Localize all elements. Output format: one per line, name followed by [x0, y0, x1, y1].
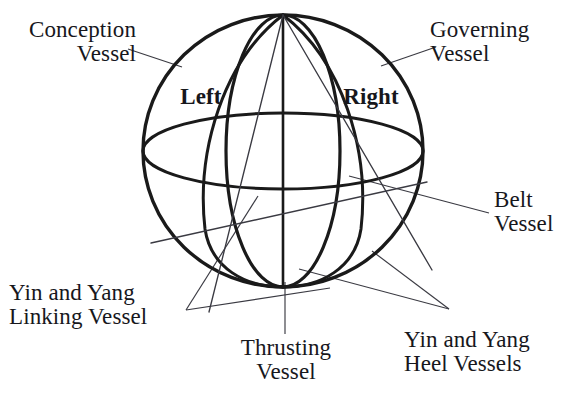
sphere-diagram: Conception Vessel Governing Vessel Belt … — [0, 0, 563, 401]
heel-vessel-chord-lower — [151, 182, 427, 243]
leader-linking-b — [186, 288, 330, 310]
label-linking-vessel: Yin and Yang Linking Vessel — [9, 281, 189, 330]
label-right: Right — [333, 85, 409, 109]
label-governing-vessel: Governing Vessel — [430, 18, 563, 67]
label-conception-vessel: Conception Vessel — [0, 18, 136, 67]
label-belt-vessel: Belt Vessel — [494, 188, 563, 237]
label-left: Left — [165, 85, 237, 109]
label-thrusting-vessel: Thrusting Vessel — [225, 336, 347, 385]
sphere-group — [143, 15, 432, 312]
yin-linking-vessel-chord — [209, 15, 283, 312]
label-heel-vessels: Yin and Yang Heel Vessels — [404, 328, 563, 377]
yang-linking-vessel-chord — [283, 15, 432, 270]
leader-heel-a — [372, 251, 449, 309]
leader-linking-a — [186, 196, 258, 310]
